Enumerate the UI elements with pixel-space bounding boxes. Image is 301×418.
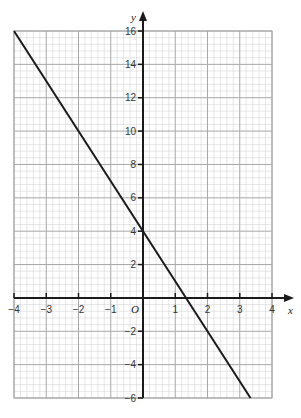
y-tick-label: 8: [130, 159, 136, 170]
y-tick-label: 4: [130, 226, 136, 237]
y-tick-label: −6: [125, 393, 137, 404]
y-tick-label: 16: [125, 26, 137, 37]
axis-ticks: −4−3−2−11234−6−4−2246810121416: [8, 26, 275, 404]
x-axis-arrow-icon: [284, 294, 294, 302]
x-tick-label: −1: [105, 304, 117, 315]
y-tick-label: 12: [125, 92, 137, 103]
y-tick-label: 14: [125, 59, 137, 70]
y-axis-arrow-icon: [139, 11, 147, 21]
x-axis-label: x: [287, 304, 293, 316]
data-series: [14, 31, 250, 398]
x-tick-label: −3: [41, 304, 53, 315]
y-axis-label: y: [130, 11, 136, 23]
x-tick-label: −4: [8, 304, 20, 315]
y-tick-label: 10: [125, 126, 137, 137]
origin-label: O: [131, 303, 139, 315]
x-tick-label: 2: [205, 304, 211, 315]
line-graph: −4−3−2−11234−6−4−2246810121416 x y O: [0, 0, 301, 418]
y-tick-label: 6: [130, 192, 136, 203]
x-tick-label: −2: [73, 304, 85, 315]
y-tick-label: 2: [130, 259, 136, 270]
y-tick-label: −2: [125, 326, 137, 337]
data-line: [14, 31, 250, 398]
x-tick-label: 1: [172, 304, 178, 315]
x-tick-label: 3: [237, 304, 243, 315]
x-tick-label: 4: [269, 304, 275, 315]
y-tick-label: −4: [125, 359, 137, 370]
